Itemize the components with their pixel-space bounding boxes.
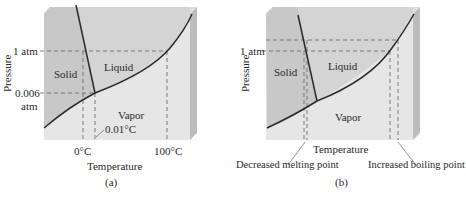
region-label-vapor-b: Vapor [335, 111, 362, 123]
phase-diagram-figure: 1 atm 0.006 atm Pressure Solid Liquid Va… [0, 0, 466, 198]
caption-b: (b) [335, 176, 348, 189]
y-axis-label-b: Pressure [239, 55, 251, 92]
annotation-increased-boiling-point: Increased boiling point [368, 159, 465, 170]
panel-a: 1 atm 0.006 atm Pressure Solid Liquid Va… [1, 5, 197, 189]
x-axis-label-b: Temperature [313, 143, 369, 155]
pressure-tick-1atm-b: 1 atm [240, 45, 265, 57]
pressure-tick-0006: 0.006 [15, 87, 40, 99]
triple-point-label: 0.01°C [105, 123, 136, 135]
temp-tick-100c: 100°C [154, 145, 182, 157]
region-label-solid-b: Solid [274, 66, 298, 78]
region-label-solid-a: Solid [54, 68, 78, 80]
box-side-face [190, 7, 197, 140]
region-label-liquid-b: Liquid [328, 60, 358, 72]
y-axis-label-a: Pressure [1, 55, 13, 92]
region-label-liquid-a: Liquid [104, 61, 134, 73]
x-axis-label-a: Temperature [87, 160, 143, 172]
box-side-face [413, 7, 420, 140]
region-label-vapor-a: Vapor [118, 109, 145, 121]
caption-a: (a) [105, 176, 118, 189]
panel-b: Pressure 1 atm Solid Liquid Vapor Temper… [236, 7, 465, 189]
annotation-decreased-melting-point: Decreased melting point [236, 159, 339, 170]
temp-tick-0c: 0°C [74, 145, 91, 157]
pressure-tick-atm: atm [21, 100, 38, 112]
pressure-tick-1atm: 1 atm [13, 45, 38, 57]
